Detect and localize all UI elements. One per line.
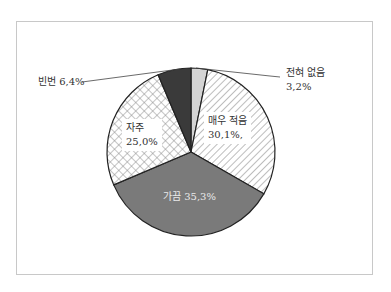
label-never-name: 전혀 없음 [286,66,325,80]
label-frequent-text: 빈번 6,4% [38,76,85,87]
label-very-little: 매우 적음 30,1%, [204,112,251,144]
label-very-little-name: 매우 적음 [208,114,247,128]
label-very-little-pct: 30,1%, [208,128,247,142]
label-often-name: 자주 [126,121,158,135]
label-often: 자주 25,0% [122,119,162,151]
label-never-pct: 3,2% [286,80,325,94]
label-sometimes: 가끔 35,3% [163,190,216,204]
label-sometimes-text: 가끔 35,3% [163,191,216,202]
label-never: 전혀 없음 3,2% [286,66,325,94]
label-often-pct: 25,0% [126,135,158,149]
pie-chart [0,0,391,292]
label-frequent: 빈번 6,4% [38,75,85,89]
